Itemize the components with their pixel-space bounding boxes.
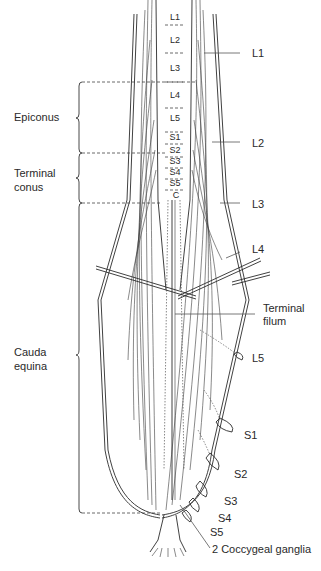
- region-label-terminal-conus: Terminalconus: [14, 167, 56, 193]
- root-label: L4: [252, 243, 264, 255]
- dorsal-root-ganglia: [182, 330, 243, 522]
- coccygeal-tail: [150, 515, 186, 557]
- segment-label: L3: [170, 63, 180, 73]
- segment-label: S1: [169, 132, 180, 142]
- root-label: L2: [252, 137, 264, 149]
- terminal-filum-label: Terminal filum: [263, 302, 308, 327]
- segment-label: S4: [169, 167, 180, 177]
- root-label: S5: [210, 526, 223, 538]
- segment-label: S5: [169, 178, 180, 188]
- segment-label: S2: [169, 145, 180, 155]
- segment-label: L4: [170, 90, 180, 100]
- cord-segment-labels: L1 L2 L3 L4 L5 S1 S2 S3 S4 S5 C: [169, 12, 180, 200]
- segment-label: S3: [169, 156, 180, 166]
- root-label: S3: [224, 495, 237, 507]
- root-labels: L1 L2 L3 L4 L5 S1 S2 S3 S4 S5: [210, 47, 264, 538]
- root-label: S2: [234, 468, 247, 480]
- root-label: S1: [244, 429, 257, 441]
- region-label-epiconus: Epiconus: [14, 111, 60, 123]
- spinal-cord: [128, 0, 222, 510]
- root-label: S4: [218, 512, 231, 524]
- segment-label: L2: [170, 35, 180, 45]
- segment-label: L1: [170, 12, 180, 22]
- spinal-cord-diagram: L1 L2 L3 L4 L5 S1 S2 S3 S4 S5 C L1 L2 L3…: [0, 0, 321, 571]
- root-label: L5: [252, 352, 264, 364]
- root-label: L1: [252, 47, 264, 59]
- region-label-cauda-equina: Caudaequina: [14, 346, 48, 372]
- segment-label: L5: [170, 113, 180, 123]
- region-labels: Epiconus Terminalconus Caudaequina: [14, 111, 60, 372]
- segment-label: C: [173, 190, 180, 200]
- root-label: L3: [252, 198, 264, 210]
- coccygeal-ganglia-label: 2 Coccygeal ganglia: [212, 543, 312, 555]
